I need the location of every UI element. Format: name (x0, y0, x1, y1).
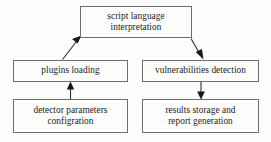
node-label: detector parameters configration (32, 105, 110, 128)
flowchart-diagram: script language interpretation plugins l… (0, 0, 271, 142)
node-label: script language interpretation (105, 11, 166, 34)
arrowhead (67, 82, 74, 90)
edge-line (191, 39, 199, 53)
node-results-storage-and-report-generation: results storage and report generation (142, 99, 259, 133)
node-detector-parameters-configration: detector parameters configration (13, 99, 128, 133)
edge-line (63, 42, 77, 60)
node-script-language-interpretation: script language interpretation (80, 6, 192, 38)
node-label: results storage and report generation (163, 105, 237, 128)
edge-plugins-to-script (63, 36, 82, 60)
node-vulnerabilities-detection: vulnerabilities detection (142, 60, 259, 82)
arrowhead (196, 49, 204, 60)
node-plugins-loading: plugins loading (13, 60, 128, 82)
edge-vulnerabilities-to-results (197, 82, 205, 100)
edge-script-to-vulnerabilities (191, 39, 204, 60)
node-label: vulnerabilities detection (153, 65, 248, 77)
node-label: plugins loading (39, 65, 101, 77)
edge-detector-to-plugins (67, 82, 74, 100)
